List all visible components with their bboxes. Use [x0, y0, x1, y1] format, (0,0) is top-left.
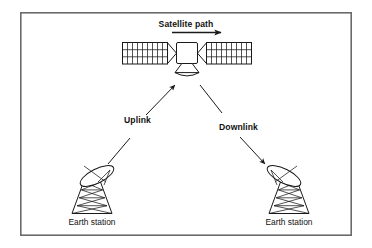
uplink-label: Uplink: [124, 115, 151, 125]
earth-station-right-label: Earth station: [265, 217, 312, 227]
diagram-canvas: Satellite path: [0, 0, 372, 248]
satellite-body: [177, 43, 198, 64]
earth-station-left-label: Earth station: [68, 217, 115, 227]
satellite-solar-panel-right: [207, 43, 252, 65]
downlink-label: Downlink: [219, 122, 258, 132]
satellite-solar-panel-left: [123, 43, 168, 65]
satellite-path-label: Satellite path: [159, 19, 214, 29]
satellite-communication-diagram: Satellite path: [0, 0, 372, 248]
